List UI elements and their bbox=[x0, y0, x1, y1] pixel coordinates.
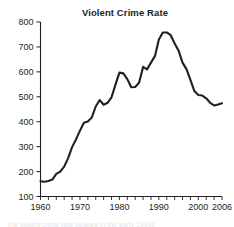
y-tick-label: 600 bbox=[18, 67, 33, 77]
x-tick-label: 2006 bbox=[212, 202, 232, 212]
y-axis-tick-labels: 100200300400500600700800 bbox=[18, 17, 33, 202]
y-tick-label: 100 bbox=[18, 192, 33, 202]
x-axis-tick-labels: 196019701980199020002006 bbox=[30, 202, 232, 212]
data-line-violent-crime-rate bbox=[41, 32, 223, 181]
x-tick-label: 1980 bbox=[109, 202, 129, 212]
cropped-caption-text: the violent crime rate peaked in the ear… bbox=[8, 221, 226, 227]
y-axis-ticks bbox=[37, 22, 41, 197]
y-tick-label: 300 bbox=[18, 142, 33, 152]
x-axis: 196019701980199020002006 bbox=[30, 197, 232, 213]
x-tick-label: 1970 bbox=[70, 202, 90, 212]
x-tick-label: 1960 bbox=[30, 202, 50, 212]
y-tick-label: 700 bbox=[18, 42, 33, 52]
chart-plot-area: 100200300400500600700800 196019701980199… bbox=[0, 0, 234, 227]
violent-crime-rate-chart: Violent Crime Rate 100200300400500600700… bbox=[0, 0, 234, 227]
y-tick-label: 200 bbox=[18, 167, 33, 177]
y-tick-label: 400 bbox=[18, 117, 33, 127]
x-tick-label: 2000 bbox=[188, 202, 208, 212]
y-axis: 100200300400500600700800 bbox=[18, 17, 40, 202]
x-tick-label: 1990 bbox=[149, 202, 169, 212]
y-tick-label: 800 bbox=[18, 17, 33, 27]
y-tick-label: 500 bbox=[18, 92, 33, 102]
